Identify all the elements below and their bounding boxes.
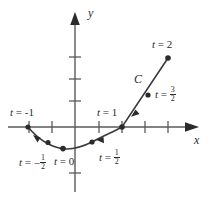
label-t-two: t = 2 [152,39,172,50]
t-variable: t [10,106,13,118]
point-t-three-halves [145,92,150,97]
point-t-neg-half [45,140,50,145]
t-variable: t [54,155,57,167]
equals-sign: = [60,155,66,167]
curve-label-c: C [134,72,142,87]
t-value: 0 [69,155,75,167]
fraction-three-halves: 32 [170,86,176,104]
y-axis-label: y [88,6,93,21]
label-t-three-halves: t = 32 [155,87,176,105]
equals-sign: = [16,106,22,118]
label-t-one: t = 1 [97,107,117,118]
t-variable: t [99,151,102,163]
fraction-numerator: 1 [114,149,120,157]
t-variable: t [19,156,22,168]
x-axis-label: x [194,133,199,148]
fraction-denominator: 2 [114,157,120,166]
equals-sign: = [161,88,167,100]
t-value: -1 [25,106,34,118]
equals-sign: = [25,156,31,168]
fraction-one-half: 12 [114,149,120,167]
label-t-neg1: t = -1 [10,107,34,118]
fraction-denominator: 2 [40,162,46,171]
fraction-one-half: 12 [40,154,46,172]
point-t-neg1 [25,124,30,129]
fraction-numerator: 3 [170,86,176,94]
t-value: 1 [112,106,118,118]
point-t-two [165,55,171,61]
t-variable: t [152,38,155,50]
label-t-half: t = 12 [99,150,120,168]
point-t-one [119,124,125,130]
marked-points [25,55,170,151]
point-t-zero [60,146,66,152]
equals-sign: = [158,38,164,50]
t-variable: t [97,106,100,118]
equals-sign: = [103,106,109,118]
point-t-half [89,139,94,144]
equals-sign: = [105,151,111,163]
fraction-denominator: 2 [170,94,176,103]
t-value: 2 [167,38,173,50]
label-t-neg-half: t = −12 [19,155,46,173]
parametric-curve-figure: y x C t = -1 t = −12 t = 0 t = 12 t = 1 … [0,0,210,197]
curve-path [28,58,168,149]
fraction-numerator: 1 [40,154,46,162]
x-axis [8,121,199,133]
label-t-zero: t = 0 [54,156,74,167]
t-variable: t [155,88,158,100]
